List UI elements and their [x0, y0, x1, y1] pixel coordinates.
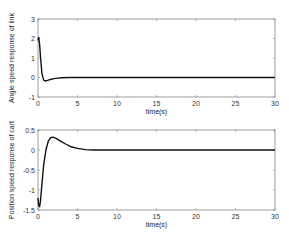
x-tick-label: 10 — [113, 100, 121, 107]
x-tick-label: 15 — [153, 213, 161, 220]
y-axis-label: Position speed response of cart — [8, 121, 16, 219]
x-tick-label: 25 — [232, 100, 240, 107]
y-tick-label: 0.5 — [25, 127, 35, 134]
x-tick-label: 0 — [36, 100, 40, 107]
x-tick-label: 30 — [271, 100, 279, 107]
x-axis-label: time(s) — [146, 108, 167, 116]
y-axis-label: Angle speed response of link — [8, 13, 16, 103]
cart-plot: 051015202530-1.5-1-0.500.5time(s)Positio… — [8, 121, 279, 229]
x-tick-label: 10 — [113, 213, 121, 220]
y-tick-label: -1 — [29, 94, 35, 101]
x-tick-label: 5 — [76, 100, 80, 107]
y-tick-label: 3 — [31, 16, 35, 23]
chart-figure: 051015202530-10123time(s)Angle speed res… — [0, 0, 289, 242]
y-tick-label: -1 — [29, 187, 35, 194]
x-tick-label: 0 — [36, 213, 40, 220]
x-tick-label: 5 — [76, 213, 80, 220]
y-tick-label: 0 — [31, 147, 35, 154]
y-tick-label: 2 — [31, 35, 35, 42]
x-axis-label: time(s) — [146, 221, 167, 229]
x-tick-label: 20 — [192, 100, 200, 107]
x-tick-label: 30 — [271, 213, 279, 220]
y-tick-label: 0 — [31, 74, 35, 81]
y-tick-label: -1.5 — [23, 207, 35, 214]
x-tick-label: 15 — [153, 100, 161, 107]
y-tick-label: -0.5 — [23, 167, 35, 174]
axes-box — [38, 130, 275, 210]
x-tick-label: 20 — [192, 213, 200, 220]
x-tick-label: 25 — [232, 213, 240, 220]
angle-plot: 051015202530-10123time(s)Angle speed res… — [8, 13, 279, 116]
axes-box — [38, 19, 275, 97]
y-tick-label: 1 — [31, 55, 35, 62]
